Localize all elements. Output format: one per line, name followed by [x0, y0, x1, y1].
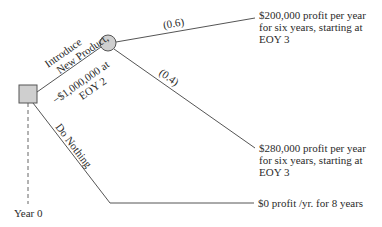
outcome-lower-line3: EOY 3 — [259, 166, 366, 178]
year-0-label: Year 0 — [14, 207, 43, 219]
decision-tree-diagram: Introduce New Product, −$1,000,000 at EO… — [0, 0, 382, 227]
decision-node — [19, 85, 37, 103]
outcome-upper: $200,000 profit per year for six years, … — [259, 9, 366, 45]
outcome-lower: $280,000 profit per year for six years, … — [259, 142, 366, 178]
outcome-lower-line1: $280,000 profit per year — [259, 142, 366, 154]
outcome-upper-line1: $200,000 profit per year — [259, 9, 366, 21]
do-nothing-branch-line — [33, 103, 254, 203]
outcome-upper-line2: for six years, starting at — [259, 21, 366, 33]
chance-branch-lower-line — [114, 49, 255, 148]
outcome-lower-line2: for six years, starting at — [259, 154, 366, 166]
outcome-do-nothing-line1: $0 profit /yr. for 8 years — [258, 197, 363, 209]
chance-branch-upper-line — [116, 18, 255, 42]
outcome-do-nothing: $0 profit /yr. for 8 years — [258, 197, 363, 209]
outcome-upper-line3: EOY 3 — [259, 33, 366, 45]
